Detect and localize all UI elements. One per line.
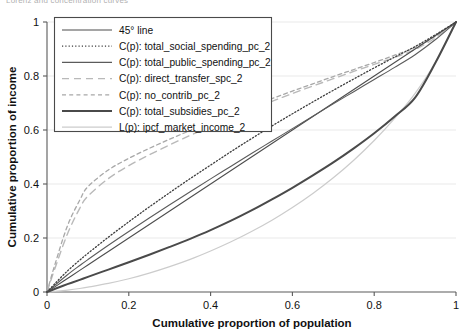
x-tick-label: 0.6 (285, 299, 300, 311)
y-tick-label: 0.6 (24, 124, 39, 136)
y-tick-label: 0.8 (24, 70, 39, 82)
y-tick-label: 0 (33, 286, 39, 298)
y-tick-label: 0.2 (24, 232, 39, 244)
clipped-header-text: Lorenz and concentration curves (6, 0, 176, 5)
y-axis-title: Cumulative proportion of income (6, 67, 18, 248)
x-tick-label: 0 (44, 299, 50, 311)
legend-label: C(p): direct_transfer_spc_2 (119, 73, 243, 84)
legend-label: 45° line (119, 25, 153, 36)
x-tick-label: 0.8 (367, 299, 382, 311)
legend-label: L(p): ipcf_market_income_2 (119, 122, 246, 133)
x-tick-label: 1 (453, 299, 459, 311)
y-tick-label: 1 (33, 16, 39, 28)
legend-label: C(p): total_subsidies_pc_2 (119, 106, 240, 117)
chart-legend: 45° lineC(p): total_social_spending_pc_2… (55, 18, 272, 134)
lorenz-concentration-curve-chart: 00.20.40.60.81 00.20.40.60.81 Cumulative… (0, 0, 474, 336)
x-tick-label: 0.2 (121, 299, 136, 311)
x-axis-title: Cumulative proportion of population (152, 317, 351, 329)
chart-figure: Lorenz and concentration curves 00.20.40… (0, 0, 474, 336)
legend-label: C(p): total_social_spending_pc_2 (119, 41, 271, 52)
x-tick-label: 0.4 (203, 299, 218, 311)
legend-label: C(p): no_contrib_pc_2 (119, 90, 220, 101)
x-axis-ticks: 00.20.40.60.81 (44, 292, 459, 311)
y-axis-ticks: 00.20.40.60.81 (24, 16, 47, 298)
y-tick-label: 0.4 (24, 178, 39, 190)
legend-label: C(p): total_public_spending_pc_2 (119, 57, 271, 68)
